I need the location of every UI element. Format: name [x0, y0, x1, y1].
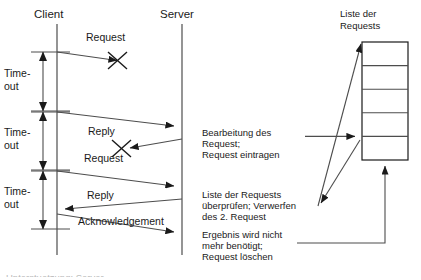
link-list-to-check-note	[318, 44, 361, 206]
timeout-bracket-3	[31, 171, 70, 230]
participant-label-server: Server	[160, 9, 194, 21]
note-delete-line3: Request löschen	[202, 251, 273, 262]
message-label-acknowledgement: Acknowledgement	[78, 216, 164, 228]
request-list-table	[362, 42, 408, 160]
timeout-label-3-line1: Time-	[4, 186, 30, 198]
timeout-bracket-1	[31, 52, 70, 112]
note-processing-line3: Request eintragen	[202, 149, 280, 160]
message-arrow-request-2	[57, 112, 174, 126]
timeout-label-2-line2: out	[4, 140, 19, 152]
timeout-label-3-line2: out	[4, 199, 19, 211]
message-label-request-1: Request	[86, 32, 125, 44]
note-processing-line1: Bearbeitung des	[202, 127, 271, 138]
message-label-reply-1: Reply	[88, 126, 115, 138]
timeout-label-1-line2: out	[4, 81, 19, 93]
message-arrow-reply-2	[65, 199, 182, 209]
message-arrow-request-1	[57, 52, 127, 69]
request-list-title-line2: Requests	[340, 20, 380, 31]
note-delete-line1: Ergebnis wird nicht	[202, 229, 282, 240]
message-label-request-2: Request	[84, 153, 123, 165]
timeout-bracket-2	[31, 112, 70, 171]
note-processing-line2: Request;	[202, 138, 240, 149]
footer-cut-text: Unterstuetzung: Server...	[6, 272, 176, 277]
timeout-label-2-line1: Time-	[4, 127, 30, 139]
participant-label-client: Client	[34, 9, 63, 21]
note-delete-line2: mehr benötigt;	[202, 240, 263, 251]
message-label-reply-2: Reply	[87, 190, 114, 202]
request-list-title-line1: Liste der	[340, 8, 376, 19]
note-check-list-line2: überprüfen; Verwerfen	[202, 200, 296, 211]
message-arrow-request-3	[57, 171, 174, 186]
timeout-label-1-line1: Time-	[4, 68, 30, 80]
link-delete-note-to-list	[297, 166, 385, 243]
diagram-canvas: Client Server Time- out Time- out Time- …	[0, 0, 421, 280]
note-check-list-line1: Liste der Requests	[202, 189, 281, 200]
note-check-list-line3: des 2. Request	[202, 211, 266, 222]
